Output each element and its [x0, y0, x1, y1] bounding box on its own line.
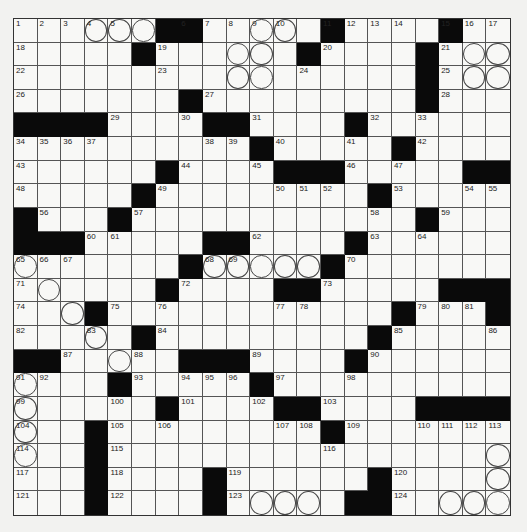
grid-cell[interactable]: 92: [38, 373, 62, 397]
grid-cell[interactable]: [227, 66, 251, 90]
grid-cell[interactable]: 54: [463, 184, 487, 208]
grid-cell[interactable]: [321, 66, 345, 90]
grid-cell[interactable]: [368, 137, 392, 161]
grid-cell[interactable]: [297, 90, 321, 114]
grid-cell[interactable]: [463, 137, 487, 161]
grid-cell[interactable]: [321, 468, 345, 492]
grid-cell[interactable]: [345, 66, 369, 90]
grid-cell[interactable]: [203, 397, 227, 421]
grid-cell[interactable]: 81: [463, 302, 487, 326]
grid-cell[interactable]: [250, 302, 274, 326]
grid-cell[interactable]: [227, 326, 251, 350]
grid-cell[interactable]: [368, 302, 392, 326]
grid-cell[interactable]: [345, 397, 369, 421]
grid-cell[interactable]: [132, 90, 156, 114]
grid-cell[interactable]: [108, 66, 132, 90]
grid-cell[interactable]: [321, 350, 345, 374]
grid-cell[interactable]: [250, 444, 274, 468]
grid-cell[interactable]: 102: [250, 397, 274, 421]
grid-cell[interactable]: [38, 397, 62, 421]
grid-cell[interactable]: 86: [486, 326, 510, 350]
grid-cell[interactable]: 44: [179, 161, 203, 185]
grid-cell[interactable]: [108, 184, 132, 208]
grid-cell[interactable]: 76: [156, 302, 180, 326]
grid-cell[interactable]: [463, 66, 487, 90]
grid-cell[interactable]: [321, 302, 345, 326]
grid-cell[interactable]: [61, 397, 85, 421]
grid-cell[interactable]: [321, 113, 345, 137]
grid-cell[interactable]: [297, 326, 321, 350]
grid-cell[interactable]: [463, 255, 487, 279]
grid-cell[interactable]: [392, 397, 416, 421]
grid-cell[interactable]: [463, 90, 487, 114]
grid-cell[interactable]: 17: [486, 19, 510, 43]
grid-cell[interactable]: [250, 208, 274, 232]
grid-cell[interactable]: [156, 373, 180, 397]
grid-cell[interactable]: 99: [14, 397, 38, 421]
grid-cell[interactable]: [392, 232, 416, 256]
grid-cell[interactable]: [132, 279, 156, 303]
grid-cell[interactable]: [416, 161, 440, 185]
grid-cell[interactable]: 37: [85, 137, 109, 161]
grid-cell[interactable]: 101: [179, 397, 203, 421]
grid-cell[interactable]: [321, 90, 345, 114]
grid-cell[interactable]: [463, 232, 487, 256]
grid-cell[interactable]: [179, 66, 203, 90]
grid-cell[interactable]: [486, 468, 510, 492]
grid-cell[interactable]: 82: [14, 326, 38, 350]
grid-cell[interactable]: 29: [108, 113, 132, 137]
grid-cell[interactable]: [227, 279, 251, 303]
grid-cell[interactable]: [156, 468, 180, 492]
grid-cell[interactable]: 107: [274, 421, 298, 445]
grid-cell[interactable]: 48: [14, 184, 38, 208]
grid-cell[interactable]: 45: [250, 161, 274, 185]
grid-cell[interactable]: [250, 468, 274, 492]
grid-cell[interactable]: [250, 326, 274, 350]
grid-cell[interactable]: 97: [274, 373, 298, 397]
grid-cell[interactable]: [227, 161, 251, 185]
grid-cell[interactable]: [250, 491, 274, 515]
grid-cell[interactable]: 59: [439, 208, 463, 232]
grid-cell[interactable]: 79: [416, 302, 440, 326]
grid-cell[interactable]: 22: [14, 66, 38, 90]
grid-cell[interactable]: [250, 43, 274, 67]
grid-cell[interactable]: 116: [321, 444, 345, 468]
grid-cell[interactable]: [179, 137, 203, 161]
grid-cell[interactable]: [179, 232, 203, 256]
grid-cell[interactable]: [368, 90, 392, 114]
grid-cell[interactable]: [227, 421, 251, 445]
grid-cell[interactable]: 74: [14, 302, 38, 326]
grid-cell[interactable]: [392, 90, 416, 114]
grid-cell[interactable]: [368, 43, 392, 67]
grid-cell[interactable]: [368, 444, 392, 468]
grid-cell[interactable]: 56: [38, 208, 62, 232]
grid-cell[interactable]: [38, 491, 62, 515]
grid-cell[interactable]: [38, 421, 62, 445]
grid-cell[interactable]: [297, 232, 321, 256]
grid-cell[interactable]: 64: [416, 232, 440, 256]
grid-cell[interactable]: 98: [345, 373, 369, 397]
grid-cell[interactable]: 89: [250, 350, 274, 374]
grid-cell[interactable]: 47: [392, 161, 416, 185]
grid-cell[interactable]: [132, 113, 156, 137]
grid-cell[interactable]: 41: [345, 137, 369, 161]
grid-cell[interactable]: [274, 350, 298, 374]
grid-cell[interactable]: [463, 43, 487, 67]
grid-cell[interactable]: 35: [38, 137, 62, 161]
grid-cell[interactable]: [85, 208, 109, 232]
grid-cell[interactable]: [392, 373, 416, 397]
grid-cell[interactable]: [439, 468, 463, 492]
grid-cell[interactable]: [392, 350, 416, 374]
grid-cell[interactable]: [345, 302, 369, 326]
grid-cell[interactable]: [38, 90, 62, 114]
grid-cell[interactable]: [439, 350, 463, 374]
grid-cell[interactable]: [392, 66, 416, 90]
grid-cell[interactable]: [345, 444, 369, 468]
grid-cell[interactable]: [416, 326, 440, 350]
grid-cell[interactable]: [297, 373, 321, 397]
grid-cell[interactable]: [61, 421, 85, 445]
grid-cell[interactable]: [179, 43, 203, 67]
grid-cell[interactable]: [156, 113, 180, 137]
grid-cell[interactable]: [108, 326, 132, 350]
grid-cell[interactable]: [392, 255, 416, 279]
